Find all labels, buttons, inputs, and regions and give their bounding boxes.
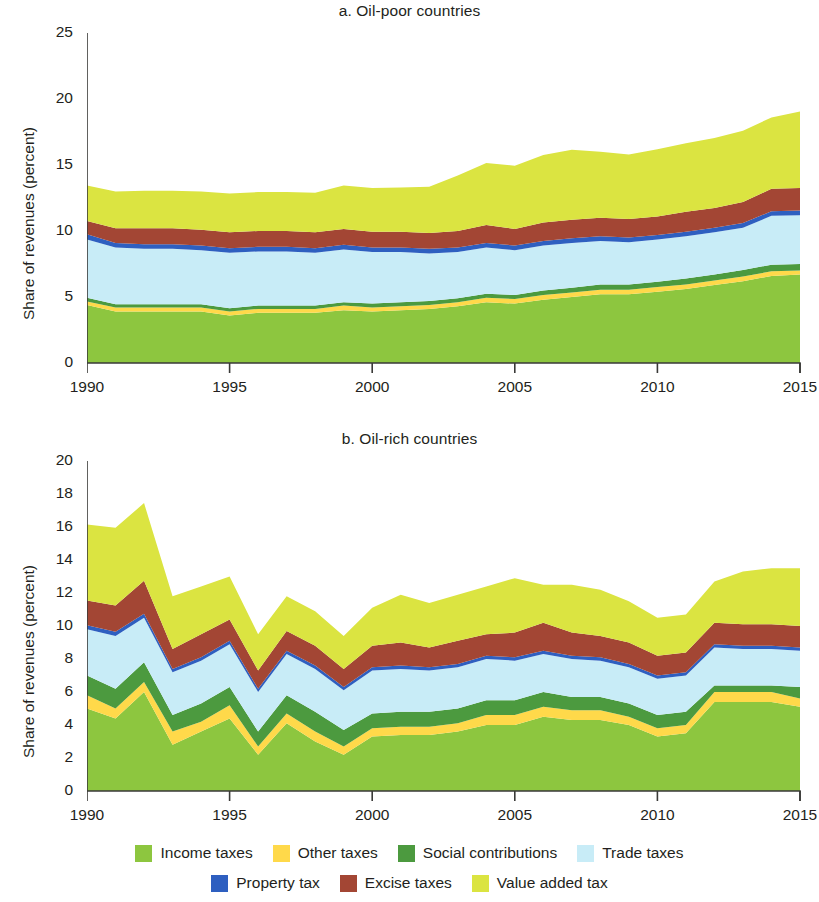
x-axis-tick-label: 1990 (57, 378, 117, 396)
legend-item[interactable]: Excise taxes (340, 874, 452, 892)
y-axis-tick-label: 4 (33, 715, 73, 733)
y-axis-tick-label: 20 (33, 89, 73, 107)
legend-swatch-icon (577, 845, 594, 862)
legend-item[interactable]: Income taxes (135, 844, 252, 862)
figure-tax-revenue-composition: a. Oil-poor countries Share of revenues … (0, 0, 819, 902)
legend-row: Property taxExcise taxesValue added tax (0, 874, 819, 892)
x-axis-tick-label: 1995 (200, 806, 260, 824)
legend-swatch-icon (472, 875, 489, 892)
x-axis-tick-label: 1990 (57, 806, 117, 824)
x-axis-tick-label: 2015 (770, 806, 819, 824)
legend-swatch-icon (398, 845, 415, 862)
chart-legend: Income taxesOther taxesSocial contributi… (0, 840, 819, 902)
panel-a-title: a. Oil-poor countries (0, 2, 819, 20)
legend-swatch-icon (211, 875, 228, 892)
legend-swatch-icon (273, 845, 290, 862)
y-axis-tick-label: 5 (33, 287, 73, 305)
y-axis-tick-label: 15 (33, 155, 73, 173)
x-axis-tick-label: 2000 (342, 378, 402, 396)
legend-item-label: Excise taxes (365, 874, 452, 892)
legend-item[interactable]: Other taxes (273, 844, 378, 862)
chart-panel-oil-rich: b. Oil-rich countries Share of revenues … (0, 428, 819, 828)
x-axis-tick-label: 2005 (485, 378, 545, 396)
x-axis-tick-label: 1995 (200, 378, 260, 396)
legend-item-label: Income taxes (160, 844, 252, 862)
legend-item-label: Other taxes (298, 844, 378, 862)
legend-item[interactable]: Social contributions (398, 844, 557, 862)
y-axis-tick-label: 10 (33, 221, 73, 239)
legend-item[interactable]: Property tax (211, 874, 320, 892)
panel-b-title: b. Oil-rich countries (0, 430, 819, 448)
legend-item-label: Value added tax (497, 874, 608, 892)
x-axis-tick-label: 2015 (770, 378, 819, 396)
panel-a-plot-area: 0510152025199019952000200520102015 (87, 33, 800, 363)
legend-item-label: Social contributions (423, 844, 557, 862)
y-axis-tick-label: 25 (33, 23, 73, 41)
legend-item[interactable]: Trade taxes (577, 844, 683, 862)
x-axis-tick-label: 2010 (627, 378, 687, 396)
y-axis-tick-label: 14 (33, 550, 73, 568)
y-axis-tick-label: 0 (33, 353, 73, 371)
panel-b-plot-area: 0246810121416182019901995200020052010201… (87, 461, 800, 791)
x-axis-tick-label: 2010 (627, 806, 687, 824)
stacked-area-svg (87, 33, 819, 377)
y-axis-tick-label: 6 (33, 682, 73, 700)
legend-swatch-icon (135, 845, 152, 862)
chart-panel-oil-poor: a. Oil-poor countries Share of revenues … (0, 0, 819, 418)
y-axis-tick-label: 2 (33, 748, 73, 766)
y-axis-tick-label: 0 (33, 781, 73, 799)
legend-item-label: Trade taxes (602, 844, 683, 862)
y-axis-tick-label: 8 (33, 649, 73, 667)
x-axis-tick-label: 2000 (342, 806, 402, 824)
y-axis-tick-label: 12 (33, 583, 73, 601)
stacked-area-svg (87, 461, 819, 805)
legend-swatch-icon (340, 875, 357, 892)
y-axis-tick-label: 20 (33, 451, 73, 469)
y-axis-tick-label: 16 (33, 517, 73, 535)
legend-item-label: Property tax (236, 874, 320, 892)
legend-row: Income taxesOther taxesSocial contributi… (0, 844, 819, 862)
y-axis-tick-label: 10 (33, 616, 73, 634)
y-axis-tick-label: 18 (33, 484, 73, 502)
legend-item[interactable]: Value added tax (472, 874, 608, 892)
x-axis-tick-label: 2005 (485, 806, 545, 824)
